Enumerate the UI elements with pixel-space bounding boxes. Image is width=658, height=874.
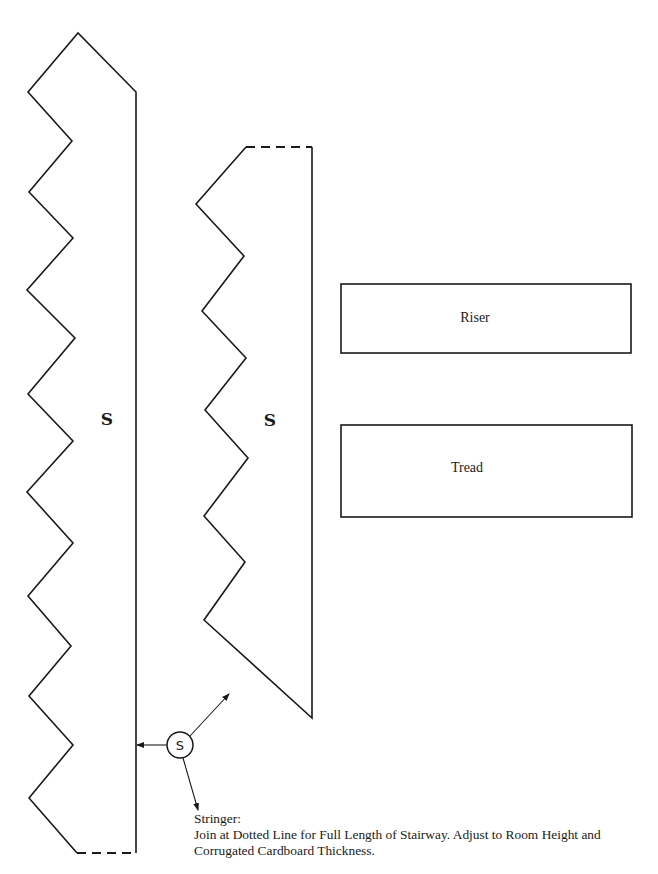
riser-piece: Riser: [341, 284, 631, 353]
caption-line-1: Join at Dotted Line for Full Length of S…: [194, 827, 654, 843]
tread-piece: Tread: [341, 425, 632, 517]
stair-pattern-diagram: S S Riser Tread S: [0, 0, 658, 874]
riser-label: Riser: [460, 310, 490, 325]
caption-line-2: Corrugated Cardboard Thickness.: [194, 843, 654, 859]
stringer-long-piece: S: [27, 33, 136, 853]
stringer-short-outline: [196, 147, 312, 718]
tread-label: Tread: [451, 460, 483, 475]
caption-title: Stringer:: [194, 811, 654, 827]
stringer-long-outline: [27, 33, 136, 853]
stringer-short-label: S: [264, 410, 276, 430]
stringer-caption: Stringer: Join at Dotted Line for Full L…: [194, 811, 654, 859]
callout-arrow-down: [183, 758, 198, 810]
stringer-long-label: S: [101, 409, 113, 429]
callout-arrow-up-right: [190, 694, 229, 736]
stringer-callout: S: [137, 694, 229, 810]
callout-symbol: S: [176, 738, 184, 753]
tread-outline: [341, 425, 632, 517]
stringer-short-piece: S: [196, 147, 312, 718]
